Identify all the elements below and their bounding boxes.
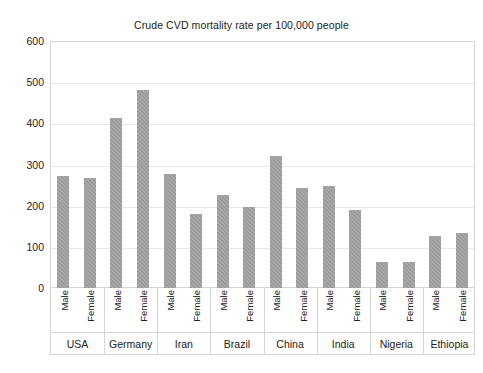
y-tick-label: 600: [0, 36, 44, 47]
country-label-band: USAGermanyIranBrazilChinaIndiaNigeriaEth…: [50, 333, 475, 355]
y-tick-label: 400: [0, 118, 44, 129]
series-label-usa-male: Male: [51, 288, 78, 332]
series-label-text: Female: [458, 288, 468, 322]
country-label-ethiopia: Ethiopia: [423, 333, 476, 354]
country-label-brazil: Brazil: [210, 333, 263, 354]
series-label-text: Female: [405, 288, 415, 322]
series-label-brazil-male: Male: [210, 288, 237, 332]
series-label-china-female: Female: [290, 288, 317, 332]
series-label-text: Male: [325, 288, 335, 311]
series-label-text: Female: [245, 288, 255, 322]
gridline: [51, 207, 474, 208]
y-tick-label: 100: [0, 242, 44, 253]
series-label-brazil-female: Female: [237, 288, 264, 332]
series-label-text: Female: [139, 288, 149, 322]
series-label-text: Male: [431, 288, 441, 311]
gridline: [51, 83, 474, 84]
series-label-nigeria-male: Male: [370, 288, 397, 332]
series-label-text: Male: [219, 288, 229, 311]
y-axis: 0100200300400500600: [0, 41, 44, 288]
series-label-text: Male: [272, 288, 282, 311]
gridline: [51, 248, 474, 249]
series-label-text: Male: [113, 288, 123, 311]
y-tick-label: 500: [0, 77, 44, 88]
country-label-germany: Germany: [104, 333, 157, 354]
series-label-text: Female: [192, 288, 202, 322]
series-label-usa-female: Female: [78, 288, 105, 332]
series-label-iran-male: Male: [157, 288, 184, 332]
gridline: [51, 124, 474, 125]
gridline: [51, 166, 474, 167]
country-label-nigeria: Nigeria: [370, 333, 423, 354]
series-label-china-male: Male: [264, 288, 291, 332]
series-label-text: Male: [378, 288, 388, 311]
country-label-iran: Iran: [157, 333, 210, 354]
country-label-india: India: [317, 333, 370, 354]
plot-area: [50, 41, 475, 288]
series-label-text: Male: [60, 288, 70, 311]
series-label-germany-male: Male: [104, 288, 131, 332]
series-label-ethiopia-male: Male: [423, 288, 450, 332]
series-label-text: Female: [299, 288, 309, 322]
series-label-india-male: Male: [317, 288, 344, 332]
y-tick-label: 200: [0, 200, 44, 211]
series-label-ethiopia-female: Female: [449, 288, 476, 332]
series-label-germany-female: Female: [131, 288, 158, 332]
series-label-nigeria-female: Female: [396, 288, 423, 332]
series-label-text: Female: [86, 288, 96, 322]
chart-container: Crude CVD mortality rate per 100,000 peo…: [0, 0, 483, 373]
y-tick-label: 0: [0, 283, 44, 294]
y-tick-label: 300: [0, 159, 44, 170]
chart-title: Crude CVD mortality rate per 100,000 peo…: [0, 19, 483, 31]
series-label-text: Female: [352, 288, 362, 322]
country-label-china: China: [264, 333, 317, 354]
series-label-iran-female: Female: [184, 288, 211, 332]
series-label-band: MaleFemaleMaleFemaleMaleFemaleMaleFemale…: [50, 288, 475, 333]
country-label-usa: USA: [51, 333, 104, 354]
series-label-india-female: Female: [343, 288, 370, 332]
series-label-text: Male: [166, 288, 176, 311]
